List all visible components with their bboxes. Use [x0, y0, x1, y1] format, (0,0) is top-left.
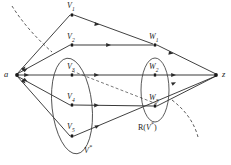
label-group-v-star: V* — [84, 144, 92, 155]
label-node-w1-base: W — [149, 32, 156, 41]
cut-curves — [12, 6, 198, 137]
cut-curve-lower-right — [172, 100, 198, 137]
arrowhead-v3-w2 — [94, 73, 99, 77]
label-node-w1-sub: 1 — [156, 37, 159, 43]
label-node-w3-base: W — [149, 93, 156, 102]
label-node-w3: W3 — [149, 94, 158, 104]
label-group-r-prefix: R( — [138, 123, 146, 132]
label-node-v1-sub: 1 — [72, 6, 75, 12]
label-node-v3: V3 — [67, 63, 75, 73]
label-group-r-suffix: ) — [154, 123, 157, 132]
label-group-v-star-sup: * — [89, 144, 92, 150]
arrowhead-v1-w1 — [94, 22, 99, 26]
node-dot-v4 — [70, 103, 73, 106]
label-node-v5: V5 — [67, 123, 75, 133]
label-node-v4: V4 — [67, 93, 75, 103]
node-dot-a — [15, 73, 19, 77]
arrowhead-a-v3 — [24, 73, 29, 77]
label-source-a: a — [4, 70, 8, 79]
label-node-v5-sub: 5 — [72, 127, 75, 133]
arrowhead-v5-z-2 — [171, 82, 176, 86]
label-node-w1: W1 — [149, 33, 158, 43]
node-dot-v5 — [70, 134, 73, 137]
node-dot-v2 — [70, 43, 73, 46]
label-node-w3-sub: 3 — [156, 98, 159, 104]
node-dot-w3 — [153, 104, 156, 107]
label-node-v2-sub: 2 — [72, 37, 75, 43]
label-group-r-v-star: R(V*) — [138, 121, 157, 132]
label-node-v3-sub: 3 — [72, 67, 75, 73]
network-flow-figure: a z V1 V2 V3 V4 V5 W1 W2 W3 V* R(V*) — [0, 0, 231, 165]
edge-w3-z — [157, 76, 216, 106]
arrowhead-v2-w1 — [106, 43, 111, 47]
label-node-w2-base: W — [149, 62, 156, 71]
label-node-v2: V2 — [67, 33, 75, 43]
label-sink-z: z — [222, 70, 225, 79]
node-dot-v1 — [70, 13, 73, 16]
arrowhead-v4-w3 — [94, 103, 99, 107]
node-dot-v3 — [70, 73, 73, 76]
edge-v4-w3 — [74, 105, 153, 106]
edge-v1-w1 — [74, 15, 153, 44]
figure-canvas — [0, 0, 231, 165]
node-dot-w2 — [153, 73, 156, 76]
label-node-v4-sub: 4 — [72, 97, 75, 103]
node-dot-z — [214, 73, 218, 77]
label-node-w2-sub: 2 — [156, 67, 159, 73]
label-node-w2: W2 — [149, 63, 158, 73]
edges-from-source — [17, 15, 70, 136]
edge-a-v5 — [17, 76, 70, 136]
node-dot-w1 — [153, 43, 156, 46]
cut-curve-upper-left — [12, 6, 52, 52]
label-node-v1: V1 — [67, 2, 75, 12]
arrowhead-w2-z — [171, 73, 176, 77]
